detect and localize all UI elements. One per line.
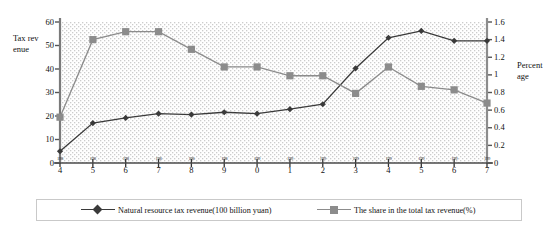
right-tick-label: 0.6 bbox=[494, 105, 505, 115]
right-tick-label: 1 bbox=[494, 69, 498, 79]
left-tick-label: 20 bbox=[28, 111, 54, 121]
x-tick-label: 1990 bbox=[247, 157, 267, 175]
legend-marker-square-icon bbox=[317, 204, 351, 216]
legend-label-series-b: The share in the total tax revenue(%) bbox=[354, 206, 475, 215]
x-tick-label: 1984 bbox=[50, 157, 70, 175]
left-tick-label: 40 bbox=[28, 64, 54, 74]
x-tick-label: 1996 bbox=[444, 157, 464, 175]
x-tick-label: 1986 bbox=[116, 157, 136, 175]
x-tick-label: 1995 bbox=[411, 157, 431, 175]
legend-label-series-a: Natural resource tax revenue(100 billion… bbox=[118, 206, 271, 215]
left-tick-label: 30 bbox=[28, 87, 54, 97]
legend-marker-diamond-icon bbox=[81, 204, 115, 216]
x-tick-label: 1989 bbox=[214, 157, 234, 175]
left-tick-label: 50 bbox=[28, 40, 54, 50]
right-tick-label: 0.2 bbox=[494, 140, 505, 150]
plot-area: 0102030405060 00.20.40.60.811.21.41.6 19… bbox=[0, 0, 551, 226]
x-tick-label: 1993 bbox=[346, 157, 366, 175]
right-tick-label: 1.4 bbox=[494, 34, 505, 44]
x-tick-label: 1997 bbox=[477, 157, 497, 175]
chart-svg bbox=[0, 0, 551, 226]
x-tick-label: 1992 bbox=[313, 157, 333, 175]
x-tick-label: 1985 bbox=[83, 157, 103, 175]
x-tick-label: 1988 bbox=[181, 157, 201, 175]
legend-item-natural-resource-tax-revenue: Natural resource tax revenue(100 billion… bbox=[81, 204, 271, 216]
legend-item-share-in-total-tax-revenue: The share in the total tax revenue(%) bbox=[317, 204, 475, 216]
x-tick-label: 1987 bbox=[149, 157, 169, 175]
plot-background bbox=[60, 22, 487, 163]
left-tick-label: 10 bbox=[28, 134, 54, 144]
left-tick-label: 60 bbox=[28, 17, 54, 27]
chart-page: Tax revenue Percentage 0102030405060 00.… bbox=[0, 0, 551, 226]
right-tick-label: 1.6 bbox=[494, 17, 505, 27]
chart-legend: Natural resource tax revenue(100 billion… bbox=[36, 199, 522, 221]
right-tick-label: 0.4 bbox=[494, 122, 505, 132]
right-tick-label: 0.8 bbox=[494, 87, 505, 97]
right-tick-label: 1.2 bbox=[494, 52, 505, 62]
x-tick-label: 1991 bbox=[280, 157, 300, 175]
x-tick-label: 1994 bbox=[378, 157, 398, 175]
